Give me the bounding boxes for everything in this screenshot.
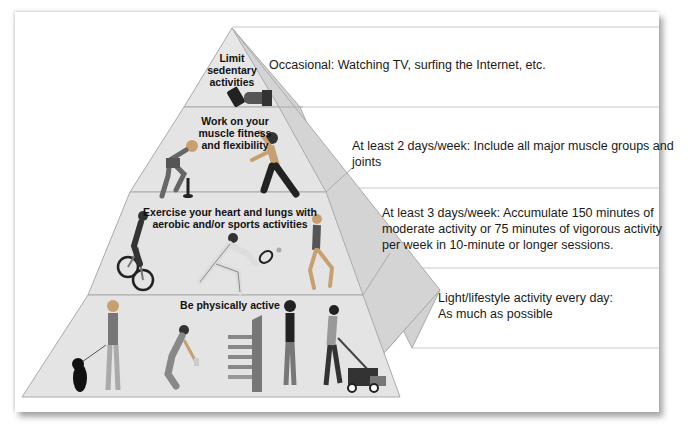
tier-2-description-line: moderate activity or 75 minutes of vigor…	[382, 221, 682, 237]
tier-1-description-line: As much as possible	[438, 306, 658, 322]
tier-3-label: Work on your muscle fitness and flexibil…	[195, 115, 275, 151]
tier-2-description: At least 3 days/week: Accumulate 150 min…	[382, 205, 682, 253]
tier-3-label-line: Work on your	[195, 115, 275, 127]
tier-2-label-line: aerobic and/or sports activities	[140, 218, 320, 230]
tier-3-label-line: muscle fitness	[195, 127, 275, 139]
tier-1-description-line: Light/lifestyle activity every day:	[438, 290, 658, 306]
tier-3-description: At least 2 days/week: Include all major …	[352, 138, 682, 170]
tier-3-description-text: At least 2 days/week: Include all major …	[352, 139, 674, 169]
tier-2-description-line: per week in 10-minute or longer sessions…	[382, 237, 682, 253]
tier-1-description: Light/lifestyle activity every day: As m…	[438, 290, 658, 322]
tier-4-label-line: Limit	[201, 52, 263, 64]
tier-4-description: Occasional: Watching TV, surfing the Int…	[269, 57, 569, 73]
tier-2-label: Exercise your heart and lungs with aerob…	[140, 206, 320, 230]
tier-2-label-line: Exercise your heart and lungs with	[140, 206, 320, 218]
tier-1-label-line: Be physically active	[170, 299, 290, 311]
tier-4-label: Limit sedentary activities	[201, 52, 263, 88]
tier-4-label-line: activities	[201, 76, 263, 88]
tier-4-label-line: sedentary	[201, 64, 263, 76]
tier-3-label-line: and flexibility	[195, 139, 275, 151]
tier-1-label: Be physically active	[170, 299, 290, 311]
tier-4-description-text: Occasional: Watching TV, surfing the Int…	[269, 58, 546, 72]
tier-2-description-line: At least 3 days/week: Accumulate 150 min…	[382, 205, 682, 221]
